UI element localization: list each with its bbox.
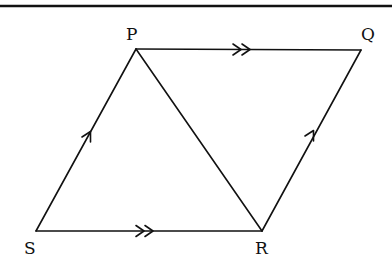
vertex-label-s: S [24, 238, 36, 258]
parallelogram-diagram: P Q R S [0, 0, 392, 265]
vertex-label-q: Q [361, 24, 375, 44]
edge-rq [262, 50, 361, 231]
edge-sp [36, 49, 136, 231]
vertex-label-p: P [126, 24, 137, 44]
vertex-label-r: R [255, 238, 269, 258]
edge-pr-diagonal [136, 49, 262, 231]
